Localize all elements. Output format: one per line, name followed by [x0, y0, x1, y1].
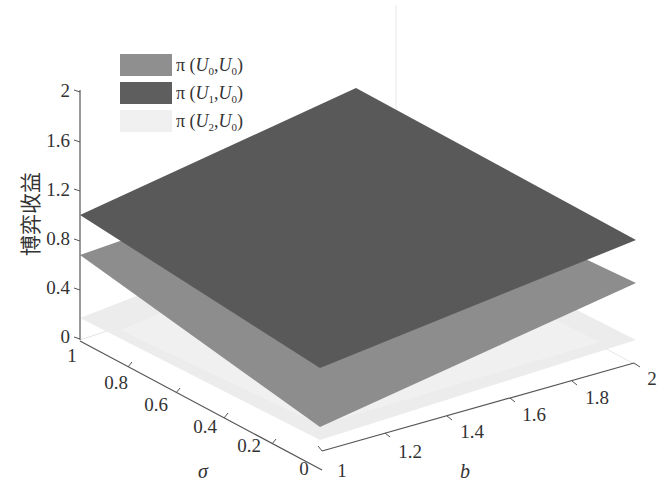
- z-axis-label: 博弈收益: [19, 172, 43, 256]
- z-axis-ticks: [74, 90, 80, 339]
- sigma-tick-1: 1: [67, 345, 77, 366]
- z-tick-0.4: 0.4: [46, 277, 70, 298]
- b-tick-2: 2: [647, 368, 657, 389]
- z-tick-2: 2: [61, 80, 71, 101]
- legend-label-u1: π (U1,U0): [176, 83, 243, 105]
- sigma-tick-0.2: 0.2: [237, 435, 261, 456]
- sigma-tick-0.6: 0.6: [144, 394, 168, 415]
- z-tick-1.6: 1.6: [46, 130, 70, 151]
- z-tick-1.2: 1.2: [46, 179, 70, 200]
- b-tick-1.4: 1.4: [460, 421, 484, 442]
- sigma-tick-0: 0: [299, 458, 309, 479]
- z-tick-0.8: 0.8: [46, 228, 70, 249]
- z-tick-0: 0: [61, 326, 71, 347]
- b-tick-1.2: 1.2: [398, 441, 422, 462]
- b-tick-1.8: 1.8: [585, 387, 609, 408]
- b-tick-1.6: 1.6: [522, 404, 546, 425]
- legend-swatch-u2: [120, 110, 172, 132]
- b-tick-1: 1: [337, 460, 347, 481]
- legend: π (U0,U0) π (U1,U0) π (U2,U0): [120, 54, 243, 133]
- sigma-tick-0.4: 0.4: [193, 416, 217, 437]
- sigma-axis-label: σ: [198, 460, 209, 482]
- legend-swatch-u0: [120, 54, 172, 76]
- b-axis-label: b: [460, 460, 470, 482]
- legend-swatch-u1: [120, 82, 172, 104]
- sigma-tick-0.8: 0.8: [104, 372, 128, 393]
- legend-label-u0: π (U0,U0): [176, 55, 243, 77]
- legend-label-u2: π (U2,U0): [176, 111, 243, 133]
- chart-canvas: 0 0.4 0.8 1.2 1.6 2 博弈收益 1 0.8 0.6 0.4 0…: [0, 0, 672, 501]
